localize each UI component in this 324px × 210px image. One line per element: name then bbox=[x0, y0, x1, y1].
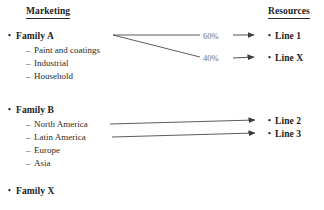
family-b-child-0[interactable]: –North America bbox=[26, 119, 88, 130]
edge-label-share-bottom: 40% bbox=[203, 53, 219, 63]
family-b-child-2-label: Europe bbox=[34, 145, 60, 155]
family-a-child-0[interactable]: –Paint and coatings bbox=[26, 45, 100, 56]
resource-node-line-3-label: Line 3 bbox=[275, 129, 301, 139]
family-node-a-label: Family A bbox=[16, 31, 54, 41]
family-a-child-2-label: Household bbox=[34, 71, 73, 81]
family-node-a[interactable]: •Family A bbox=[8, 30, 54, 42]
resource-node-line-x-label: Line X bbox=[275, 53, 303, 63]
family-a-child-2[interactable]: –Household bbox=[26, 71, 73, 82]
family-a-child-1[interactable]: –Industrial bbox=[26, 58, 69, 69]
family-node-b[interactable]: •Family B bbox=[8, 104, 54, 116]
family-node-x[interactable]: •Family X bbox=[8, 185, 55, 197]
wire-family-a-to-share-bottom bbox=[113, 35, 200, 57]
resource-node-line-x[interactable]: •Line X bbox=[268, 52, 303, 64]
family-a-child-1-label: Industrial bbox=[34, 58, 69, 68]
dash-icon: – bbox=[26, 71, 34, 82]
resource-node-line-1-label: Line 1 bbox=[275, 31, 301, 41]
bullet-icon: • bbox=[8, 30, 16, 41]
family-b-child-2[interactable]: –Europe bbox=[26, 145, 60, 156]
bullet-icon: • bbox=[268, 30, 275, 41]
bullet-icon: • bbox=[268, 115, 275, 126]
arrow-right-icon-latin-america-to-line-3 bbox=[112, 133, 255, 137]
resource-node-line-2[interactable]: •Line 2 bbox=[268, 115, 301, 127]
dash-icon: – bbox=[26, 119, 34, 130]
arrow-right-icon-north-america-to-line-2 bbox=[110, 120, 255, 124]
bullet-icon: • bbox=[8, 185, 16, 196]
arrow-right-icon-line-x bbox=[233, 57, 254, 58]
resource-node-line-2-label: Line 2 bbox=[275, 116, 301, 126]
family-b-child-1-label: Latin America bbox=[34, 132, 86, 142]
dash-icon: – bbox=[26, 45, 34, 56]
column-header-marketing: Marketing bbox=[26, 6, 70, 19]
dash-icon: – bbox=[26, 132, 34, 143]
bullet-icon: • bbox=[268, 128, 275, 139]
family-b-child-1[interactable]: –Latin America bbox=[26, 132, 86, 143]
family-node-x-label: Family X bbox=[16, 186, 55, 196]
dash-icon: – bbox=[26, 158, 34, 169]
dash-icon: – bbox=[26, 145, 34, 156]
family-b-child-0-label: North America bbox=[34, 119, 88, 129]
family-a-child-0-label: Paint and coatings bbox=[34, 45, 100, 55]
column-header-resources: Resources bbox=[268, 6, 310, 19]
resource-node-line-3[interactable]: •Line 3 bbox=[268, 128, 301, 140]
bullet-icon: • bbox=[8, 104, 16, 115]
resource-node-line-1[interactable]: •Line 1 bbox=[268, 30, 301, 42]
diagram-canvas: Marketing Resources •Family A –Paint and… bbox=[0, 0, 324, 210]
dash-icon: – bbox=[26, 58, 34, 69]
edge-label-share-top: 60% bbox=[203, 31, 219, 41]
bullet-icon: • bbox=[268, 52, 275, 63]
family-b-child-3-label: Asia bbox=[34, 158, 51, 168]
family-b-child-3[interactable]: –Asia bbox=[26, 158, 51, 169]
family-node-b-label: Family B bbox=[16, 105, 54, 115]
